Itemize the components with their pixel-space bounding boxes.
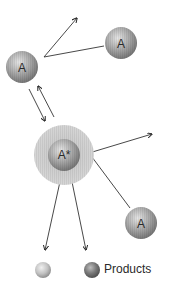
scatter-arrow-astar bbox=[89, 134, 152, 153]
molecule-a-bottom-right: A bbox=[125, 207, 157, 239]
molecule-a-top-left: A bbox=[6, 51, 38, 83]
collision-line-a1-a2 bbox=[44, 46, 104, 57]
collision-line-astar-a3 bbox=[89, 153, 130, 208]
product-arrow-2 bbox=[71, 177, 86, 250]
products-label: Products bbox=[104, 262, 151, 276]
molecule-label: A bbox=[137, 217, 145, 231]
molecule-a-top-right: A bbox=[105, 27, 137, 59]
activation-diagram: A A A* A bbox=[0, 0, 171, 294]
molecule-label: A bbox=[18, 61, 26, 75]
product-arrow-1 bbox=[45, 177, 61, 250]
molecule-label: A bbox=[117, 37, 125, 51]
activated-molecule-a-star: A* bbox=[48, 139, 80, 171]
scatter-arrow-a1 bbox=[44, 18, 77, 57]
product-sphere-light bbox=[35, 262, 51, 278]
molecule-label: A* bbox=[58, 148, 71, 162]
product-sphere-dark bbox=[84, 262, 100, 278]
activation-arrow-down bbox=[29, 89, 45, 121]
